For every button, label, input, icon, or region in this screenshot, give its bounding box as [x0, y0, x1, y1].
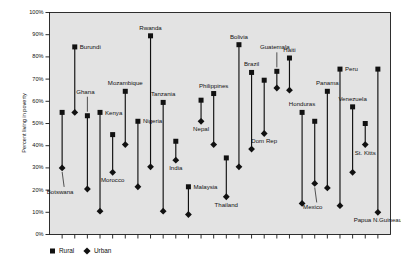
- y-tick-label: 40%: [32, 142, 43, 148]
- point-label: St. Kitts: [355, 149, 376, 156]
- point-label: Haiti: [283, 46, 295, 53]
- rural-marker: [236, 42, 241, 47]
- point-label: India: [169, 164, 183, 171]
- point-label: Dom Rep: [251, 137, 277, 144]
- legend-urban-label: Urban: [94, 247, 112, 254]
- legend-rural-marker-icon: [50, 249, 55, 254]
- point-label: Mexico: [303, 203, 323, 210]
- point-label: Venezuela: [338, 95, 367, 102]
- point-label: Thailand: [215, 201, 238, 208]
- point-label: Panama: [316, 79, 339, 86]
- point-label: Morocco: [101, 176, 125, 183]
- point-label: Papua N.Guineau: [354, 216, 401, 223]
- point-label: Bolivia: [230, 33, 249, 40]
- rural-marker: [249, 70, 254, 75]
- rural-marker: [123, 89, 128, 94]
- legend-rural-label: Rural: [59, 247, 74, 254]
- rural-marker: [135, 119, 140, 124]
- y-tick-label: 90%: [32, 31, 43, 37]
- rural-marker: [211, 91, 216, 96]
- y-tick-label: 70%: [32, 76, 43, 82]
- rural-marker: [72, 44, 77, 49]
- rural-marker: [161, 100, 166, 105]
- y-axis-title: Percent living in poverty: [21, 93, 27, 153]
- rural-marker: [186, 184, 191, 189]
- point-label: Nigeria: [143, 117, 163, 124]
- rural-marker: [337, 67, 342, 72]
- y-tick-label: 30%: [32, 164, 43, 170]
- rural-marker: [60, 110, 65, 115]
- rural-marker: [262, 78, 267, 83]
- y-tick-label: 20%: [32, 187, 43, 193]
- point-label: Peru: [345, 65, 358, 72]
- rural-marker: [199, 98, 204, 103]
- point-label: Honduras: [289, 100, 315, 107]
- poverty-scatter-chart: 0%10%20%30%40%50%60%70%80%90%100% Percen…: [0, 0, 401, 275]
- y-tick-label: 80%: [32, 53, 43, 59]
- rural-marker: [98, 110, 103, 115]
- rural-marker: [363, 121, 368, 126]
- y-tick-label: 100%: [29, 9, 43, 15]
- point-label: Ghana: [76, 88, 95, 95]
- rural-marker: [287, 56, 292, 61]
- rural-marker: [173, 139, 178, 144]
- y-tick-label: 0%: [35, 231, 43, 237]
- point-label: Mozambique: [108, 79, 143, 86]
- rural-marker: [325, 89, 330, 94]
- y-tick-label: 60%: [32, 98, 43, 104]
- chart-figure: 0%10%20%30%40%50%60%70%80%90%100% Percen…: [0, 0, 401, 275]
- point-label: Nepal: [193, 125, 209, 132]
- rural-marker: [224, 155, 229, 160]
- point-label: Botswana: [47, 188, 74, 195]
- y-tick-label: 50%: [32, 120, 43, 126]
- rural-marker: [350, 104, 355, 109]
- rural-marker: [300, 110, 305, 115]
- point-label: Brazil: [244, 60, 259, 67]
- point-label: Malaysia: [193, 183, 218, 190]
- rural-marker: [85, 113, 90, 118]
- point-label: Burundi: [80, 43, 101, 50]
- rural-marker: [148, 33, 153, 38]
- rural-marker: [312, 119, 317, 124]
- point-label: Tanzania: [151, 90, 176, 97]
- rural-marker: [110, 132, 115, 137]
- point-label: Rwanda: [139, 24, 162, 31]
- point-label: Kenya: [105, 109, 123, 116]
- rural-marker: [375, 67, 380, 72]
- point-label: Philippines: [199, 82, 228, 89]
- rural-marker: [274, 69, 279, 74]
- y-tick-label: 10%: [32, 209, 43, 215]
